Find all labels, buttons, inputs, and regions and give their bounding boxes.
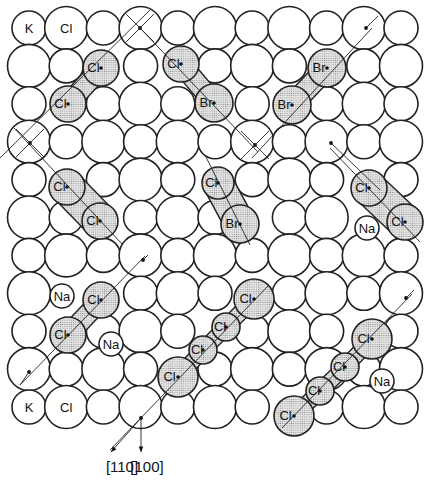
k-ion (235, 390, 269, 424)
k-ion (347, 49, 381, 83)
atom-label: Cl (239, 291, 251, 306)
k-ion (198, 276, 232, 310)
atom-label: Cl (87, 60, 99, 75)
nucleus-dot (212, 101, 216, 105)
k-ion (49, 125, 83, 159)
k-ion (161, 87, 195, 121)
cl-ion (119, 82, 162, 125)
impurity-label: Na (374, 374, 391, 389)
k-ion (12, 87, 46, 121)
impurity-label: Na (103, 337, 120, 352)
cl-ion (119, 158, 162, 201)
k-ion (384, 390, 418, 424)
atom-label: Cl (333, 359, 345, 374)
nucleus-dot (176, 375, 180, 379)
cl-ion (380, 120, 423, 163)
nucleus-dot (99, 298, 103, 302)
k-ion (235, 11, 269, 45)
cl-ion (268, 234, 311, 277)
cl-ion (305, 272, 348, 315)
k-ion (161, 11, 195, 45)
cl-ion (380, 44, 423, 87)
atom-label: Cl (391, 214, 403, 229)
k-ion (310, 163, 344, 197)
impurity-label: Na (54, 289, 71, 304)
atom-label: Cl (53, 179, 65, 194)
atom-label: Br (313, 60, 327, 75)
atom-label: Cl (163, 369, 175, 384)
atom-label: Cl (279, 408, 291, 423)
k-ion (12, 314, 46, 348)
ion-label: Cl (60, 400, 72, 415)
k-ion (86, 238, 120, 272)
atom-label: Cl (357, 331, 369, 346)
cl-ion (8, 196, 51, 239)
k-ion (310, 238, 344, 272)
k-ion (310, 11, 344, 45)
atom-label: Cl (54, 327, 66, 342)
atom-label: Cl (214, 319, 226, 334)
k-ion (310, 314, 344, 348)
cl-ion (268, 310, 311, 353)
atom-label: Cl (308, 383, 320, 398)
nucleus-dot (66, 102, 70, 106)
k-ion (12, 163, 46, 197)
atom-label: Cl (191, 342, 203, 357)
nucleus-dot (98, 219, 102, 223)
cl-ion (231, 348, 274, 391)
k-ion (272, 201, 306, 235)
nucleus-dot (252, 297, 256, 301)
atom-label: Cl (205, 175, 217, 190)
atom-label: Cl (355, 180, 367, 195)
nucleus-dot (290, 103, 294, 107)
k-ion (272, 49, 306, 83)
nucleus-dot (179, 62, 183, 66)
atom-label: Cl (87, 292, 99, 307)
nucleus-dot (99, 66, 103, 70)
kcl-lattice-diagram: KClKCl ClClClBrBrBrClClClBrClClClClClClC… (0, 0, 435, 482)
impurity-label: Na (359, 221, 376, 236)
atom-label: Cl (54, 96, 66, 111)
k-ion (12, 238, 46, 272)
arrowhead-icon (139, 446, 144, 452)
cl-ion (119, 310, 162, 353)
cl-ion (8, 272, 51, 315)
k-ion (347, 125, 381, 159)
nucleus-dot (367, 186, 371, 190)
k-ion (235, 87, 269, 121)
cl-ion (156, 272, 199, 315)
nucleus-dot (403, 220, 407, 224)
k-ion (124, 201, 158, 235)
k-ion (161, 163, 195, 197)
cl-ion (156, 120, 199, 163)
k-ion (384, 11, 418, 45)
cl-ion (8, 44, 51, 87)
nucleus-dot (325, 66, 329, 70)
k-ion (124, 125, 158, 159)
k-ion (272, 276, 306, 310)
nucleus-dot (292, 414, 296, 418)
cl-ion (305, 120, 348, 163)
cl-ion (156, 196, 199, 239)
k-ion (347, 276, 381, 310)
atom-label: Cl (167, 56, 179, 71)
k-ion (124, 49, 158, 83)
nucleus-dot (65, 185, 69, 189)
direction-label: [100] (130, 458, 163, 475)
k-ion (198, 125, 232, 159)
k-ion (86, 11, 120, 45)
k-ion (124, 352, 158, 386)
cl-ion (194, 7, 237, 50)
cl-ion (268, 7, 311, 50)
k-ion (272, 352, 306, 386)
cl-ion (82, 120, 125, 163)
k-ion (161, 238, 195, 272)
atom-label: Cl (86, 213, 98, 228)
cl-ion (8, 348, 51, 391)
cl-ion (305, 196, 348, 239)
atom-label: Br (226, 216, 240, 231)
cl-ion (119, 234, 162, 277)
cl-ion (268, 158, 311, 201)
ion-label: K (25, 400, 34, 415)
k-ion (161, 314, 195, 348)
